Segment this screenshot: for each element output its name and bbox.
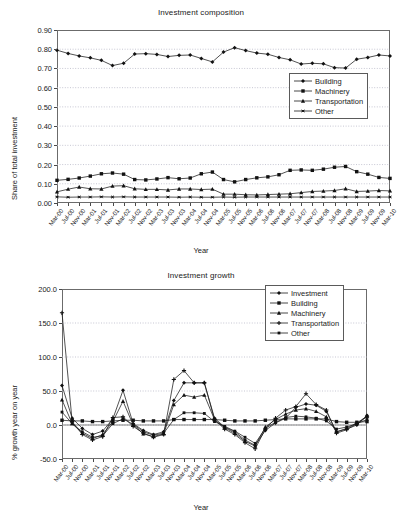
x-tick-mark [174, 459, 175, 462]
x-tick-mark [235, 459, 236, 462]
x-tick-mark [335, 203, 336, 206]
x-tick-mark [316, 459, 317, 462]
x-tick-mark [201, 203, 202, 206]
x-tick-mark [286, 459, 287, 462]
chart2-legend[interactable]: InvestmentBuildingMachineryTransportatio… [265, 285, 344, 341]
x-tick-mark [246, 203, 247, 206]
x-tick-mark [154, 459, 155, 462]
y-tick-label: 0.70 [0, 64, 52, 73]
legend-item-machinery[interactable]: Machinery [293, 86, 363, 96]
y-tick-mark [54, 126, 57, 127]
x-tick-mark [212, 203, 213, 206]
x-tick-mark [367, 459, 368, 462]
legend-label: Other [289, 329, 310, 338]
x-tick-mark [257, 203, 258, 206]
x-tick-mark [276, 459, 277, 462]
y-tick-label: 0.20 [0, 160, 52, 169]
legend-marker-square-icon [269, 298, 289, 308]
legend-item-other[interactable]: Other [269, 328, 339, 338]
x-tick-mark [346, 203, 347, 206]
chart2-title: Investment growth [0, 271, 402, 280]
x-tick-mark [224, 203, 225, 206]
legend-item-transportation[interactable]: Transportation [269, 318, 339, 328]
y-tick-label: 50.0 [0, 387, 57, 396]
x-tick-mark [290, 203, 291, 206]
x-tick-mark [312, 203, 313, 206]
x-tick-mark [265, 459, 266, 462]
x-tick-mark [82, 459, 83, 462]
chart-investment-growth: Investment growth % growth year on year … [0, 265, 402, 529]
x-tick-mark [123, 459, 124, 462]
y-tick-label: 0.90 [0, 26, 52, 35]
legend-item-machinery[interactable]: Machinery [269, 308, 339, 318]
legend-marker-square-small-icon [269, 328, 289, 338]
chart-investment-composition: Investment composition Share of total in… [0, 0, 402, 265]
x-tick-mark [101, 203, 102, 206]
legend-item-investment[interactable]: Investment [269, 288, 339, 298]
x-tick-mark [57, 203, 58, 206]
y-tick-mark [59, 289, 62, 290]
x-tick-mark [113, 203, 114, 206]
legend-item-building[interactable]: Building [269, 298, 339, 308]
x-tick-mark [164, 459, 165, 462]
x-tick-mark [135, 203, 136, 206]
x-tick-mark [323, 203, 324, 206]
legend-label: Transportation [313, 97, 363, 106]
y-tick-mark [54, 184, 57, 185]
x-tick-mark [113, 459, 114, 462]
legend-label: Investment [289, 289, 328, 298]
x-tick-mark [143, 459, 144, 462]
legend-item-other[interactable]: Other [293, 106, 363, 116]
legend-marker-star-icon [293, 106, 313, 116]
figure-page: Investment composition Share of total in… [0, 0, 402, 529]
x-tick-mark [268, 203, 269, 206]
x-tick-mark [168, 203, 169, 206]
x-tick-mark [296, 459, 297, 462]
x-tick-mark [68, 203, 69, 206]
x-tick-mark [337, 459, 338, 462]
series-building [55, 46, 392, 70]
y-tick-mark [59, 323, 62, 324]
chart1-x-axis-label: Year [0, 246, 402, 255]
y-tick-label: 200.0 [0, 285, 57, 294]
legend-marker-triangle-icon [293, 96, 313, 106]
x-tick-mark [379, 203, 380, 206]
legend-item-building[interactable]: Building [293, 76, 363, 86]
x-tick-mark [347, 459, 348, 462]
x-tick-mark [235, 203, 236, 206]
legend-label: Transportation [289, 319, 339, 328]
x-tick-mark [279, 203, 280, 206]
y-tick-label: 0.50 [0, 102, 52, 111]
legend-marker-square-icon [293, 86, 313, 96]
x-tick-mark [179, 203, 180, 206]
y-tick-mark [54, 88, 57, 89]
legend-label: Machinery [289, 309, 326, 318]
chart1-legend[interactable]: BuildingMachineryTransportationOther [289, 73, 368, 119]
series-other [61, 411, 369, 445]
x-tick-mark [301, 203, 302, 206]
legend-marker-plus-icon [269, 318, 289, 328]
series-transportation [55, 184, 392, 197]
x-tick-mark [326, 459, 327, 462]
y-tick-label: 0.40 [0, 122, 52, 131]
series-machinery [55, 165, 391, 184]
y-tick-mark [54, 145, 57, 146]
x-tick-mark [93, 459, 94, 462]
chart1-title: Investment composition [0, 8, 402, 17]
y-tick-mark [54, 107, 57, 108]
chart2-x-axis-label: Year [0, 503, 402, 512]
x-tick-mark [62, 459, 63, 462]
legend-marker-diamond-icon [269, 288, 289, 298]
x-tick-mark [245, 459, 246, 462]
x-tick-mark [72, 459, 73, 462]
x-tick-mark [204, 459, 205, 462]
y-tick-label: 150.0 [0, 319, 57, 328]
y-tick-label: 0.00 [0, 199, 52, 208]
x-tick-mark [255, 459, 256, 462]
legend-item-transportation[interactable]: Transportation [293, 96, 363, 106]
series-other [55, 196, 391, 199]
x-tick-mark [146, 203, 147, 206]
x-tick-mark [368, 203, 369, 206]
y-tick-mark [59, 425, 62, 426]
y-tick-label: 100.0 [0, 353, 57, 362]
